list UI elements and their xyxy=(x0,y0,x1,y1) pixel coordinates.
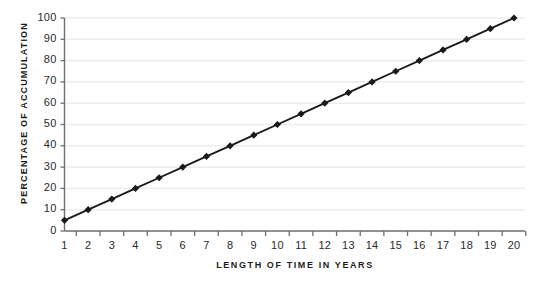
data-point-marker xyxy=(203,153,210,160)
data-point-marker xyxy=(439,46,446,53)
data-point-marker xyxy=(132,185,139,192)
data-point-marker xyxy=(463,36,470,43)
data-point-marker xyxy=(61,217,68,224)
data-line xyxy=(65,18,515,220)
data-point-marker xyxy=(250,132,257,139)
data-point-marker xyxy=(156,174,163,181)
gridlines xyxy=(65,18,526,210)
data-point-marker xyxy=(85,206,92,213)
data-point-marker xyxy=(108,195,115,202)
data-point-marker xyxy=(345,89,352,96)
data-point-marker xyxy=(227,142,234,149)
data-point-marker xyxy=(274,121,281,128)
chart-container: PERCENTAGE OF ACCUMULATION 0102030405060… xyxy=(0,0,540,288)
data-point-marker xyxy=(510,14,517,21)
data-point-marker xyxy=(416,57,423,64)
data-point-marker xyxy=(487,25,494,32)
data-point-marker xyxy=(179,164,186,171)
data-point-marker xyxy=(297,110,304,117)
plot-area xyxy=(0,0,540,288)
data-point-marker xyxy=(392,68,399,75)
x-axis-ticks xyxy=(76,231,525,236)
data-point-marker xyxy=(368,78,375,85)
x-axis-title: LENGTH OF TIME IN YEARS xyxy=(64,260,526,270)
data-point-marker xyxy=(321,100,328,107)
